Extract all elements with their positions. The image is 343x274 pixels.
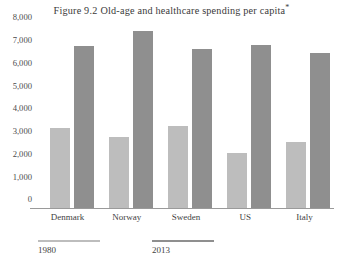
x-axis-label-denmark: Denmark [38, 213, 97, 222]
figure-title: Figure 9.2Old-age and healthcare spendin… [0, 3, 343, 16]
figure-number: Figure 9.2 [54, 5, 98, 16]
x-axis-label-norway: Norway [97, 213, 156, 222]
legend-label-1980: 1980 [38, 246, 100, 255]
bar-group [286, 26, 330, 208]
legend-swatch-2013 [152, 240, 214, 242]
bar-1980-denmark [50, 128, 70, 208]
y-axis-tick: 6,000 [13, 59, 32, 68]
footnote-marker: * [285, 3, 289, 12]
legend-label-2013: 2013 [152, 246, 214, 255]
legend-swatch-1980 [38, 240, 100, 242]
y-axis-tick: 0 [28, 195, 32, 204]
x-axis-labels: DenmarkNorwaySwedenUSItaly [38, 213, 334, 229]
y-axis-tick: 5,000 [13, 81, 32, 90]
bar-2013-sweden [192, 49, 212, 208]
y-axis-tick: 4,000 [13, 104, 32, 113]
bar-1980-norway [109, 137, 129, 208]
x-axis-baseline [30, 208, 334, 209]
bar-group [168, 26, 212, 208]
bar-1980-sweden [168, 126, 188, 208]
x-axis-label-italy: Italy [275, 213, 334, 222]
x-axis-label-sweden: Sweden [156, 213, 215, 222]
bar-group [227, 26, 271, 208]
plot-area: 8,0007,0006,0005,0004,0003,0002,0001,000… [38, 26, 334, 208]
bar-2013-us [251, 45, 271, 208]
chart-legend: 1980 2013 [0, 240, 343, 270]
y-axis-tick: 1,000 [13, 172, 32, 181]
y-axis-tick: 8,000 [13, 13, 32, 22]
y-axis-tick: 2,000 [13, 150, 32, 159]
figure-container: Figure 9.2Old-age and healthcare spendin… [0, 0, 343, 274]
x-axis-label-us: US [216, 213, 275, 222]
figure-title-text: Old-age and healthcare spending per capi… [100, 5, 285, 16]
bar-group [50, 26, 94, 208]
bar-2013-denmark [74, 46, 94, 208]
bar-1980-italy [286, 142, 306, 208]
y-axis-tick: 3,000 [13, 127, 32, 136]
legend-item-1980: 1980 [38, 240, 100, 255]
bar-1980-us [227, 153, 247, 208]
bar-group [109, 26, 153, 208]
bar-2013-norway [133, 31, 153, 208]
bar-2013-italy [310, 53, 330, 208]
y-axis-tick: 7,000 [13, 36, 32, 45]
legend-item-2013: 2013 [152, 240, 214, 255]
